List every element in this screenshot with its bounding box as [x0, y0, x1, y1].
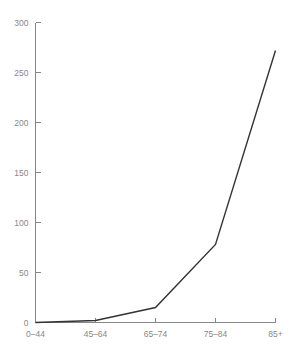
y-tick-label: 250: [14, 68, 28, 78]
y-axis-ticks: [36, 23, 41, 323]
y-tick-label: 200: [14, 118, 28, 128]
y-tick-label: 150: [14, 168, 28, 178]
x-tick-label: 65–74: [144, 329, 168, 339]
y-tick-label: 50: [19, 268, 29, 278]
y-tick-label: 100: [14, 218, 28, 228]
y-tick-label: 0: [24, 318, 29, 328]
line-chart: 050100150200250300 0–4445–6465–7475–8485…: [0, 0, 298, 354]
x-tick-label: 45–64: [84, 329, 108, 339]
y-tick-label: 300: [14, 18, 28, 28]
x-tick-label: 85+: [268, 329, 282, 339]
data-series-line: [36, 51, 276, 323]
y-axis-tick-labels: 050100150200250300: [14, 18, 28, 328]
x-axis-tick-labels: 0–4445–6465–7475–8485+: [26, 329, 283, 339]
chart-canvas: 050100150200250300 0–4445–6465–7475–8485…: [0, 0, 298, 354]
x-tick-label: 0–44: [26, 329, 45, 339]
x-tick-label: 75–84: [204, 329, 228, 339]
